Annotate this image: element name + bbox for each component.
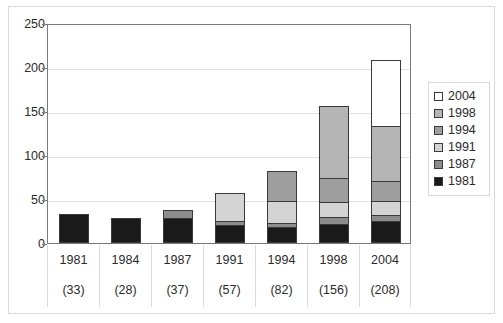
gridline: [48, 69, 410, 70]
bar-1994[interactable]: [267, 171, 297, 243]
bar-segment-2004-1981[interactable]: [371, 221, 401, 243]
legend-item-1987[interactable]: 1987: [434, 156, 485, 173]
bar-1991[interactable]: [215, 193, 245, 243]
gridline: [48, 157, 410, 158]
legend-swatch-icon: [434, 126, 443, 135]
y-axis-tick-label: 50: [5, 194, 45, 207]
x-axis-cell-1998: 1998(156): [307, 245, 359, 307]
bar-segment-1998-1994[interactable]: [319, 178, 349, 202]
x-axis-count-label: (156): [308, 284, 359, 297]
bar-segment-1998-1981[interactable]: [319, 224, 349, 243]
stacked-bar-chart-figure: 050100150200250 1981(33)1984(28)1987(37)…: [0, 0, 503, 323]
x-axis-count-label: (82): [256, 284, 307, 297]
bar-1984[interactable]: [111, 218, 141, 243]
x-axis-category-label: 1998: [308, 254, 359, 267]
bar-segment-1987-1981[interactable]: [163, 218, 193, 243]
bar-segment-1987-1987[interactable]: [163, 210, 193, 218]
gridline: [48, 113, 410, 114]
legend-item-label: 1987: [448, 158, 476, 171]
x-axis-count-label: (208): [360, 284, 410, 297]
legend-item-label: 2004: [448, 90, 476, 103]
legend-item-label: 1991: [448, 141, 476, 154]
y-axis-tick-label: 100: [5, 150, 45, 163]
bar-1987[interactable]: [163, 210, 193, 243]
x-axis-cell-1981: 1981(33): [47, 245, 99, 307]
x-axis-cell-1987: 1987(37): [151, 245, 203, 307]
bar-segment-2004-1998[interactable]: [371, 126, 401, 181]
bar-segment-1981-1981[interactable]: [59, 214, 89, 243]
bar-segment-1984-1981[interactable]: [111, 218, 141, 243]
legend-swatch-icon: [434, 109, 443, 118]
legend-item-1994[interactable]: 1994: [434, 122, 485, 139]
legend-swatch-icon: [434, 177, 443, 186]
bar-segment-1994-1981[interactable]: [267, 227, 297, 243]
legend-item-1991[interactable]: 1991: [434, 139, 485, 156]
x-axis: 1981(33)1984(28)1987(37)1991(57)1994(82)…: [47, 245, 411, 307]
bar-segment-1998-1991[interactable]: [319, 202, 349, 218]
x-axis-category-label: 2004: [360, 254, 410, 267]
y-axis-tick-label: 0: [5, 238, 45, 251]
legend-item-2004[interactable]: 2004: [434, 88, 485, 105]
x-axis-count-label: (57): [204, 284, 255, 297]
x-axis-cell-2004: 2004(208): [359, 245, 411, 307]
y-axis-tick-label: 200: [5, 62, 45, 75]
y-axis-tick-label: 250: [5, 18, 45, 31]
legend-swatch-icon: [434, 92, 443, 101]
legend-item-label: 1994: [448, 124, 476, 137]
legend-swatch-icon: [434, 143, 443, 152]
x-axis-cell-1984: 1984(28): [99, 245, 151, 307]
bar-1981[interactable]: [59, 214, 89, 243]
x-axis-category-label: 1987: [152, 254, 203, 267]
x-axis-count-label: (28): [100, 284, 151, 297]
x-axis-cell-1991: 1991(57): [203, 245, 255, 307]
x-axis-category-label: 1981: [48, 254, 99, 267]
bar-segment-1998-1998[interactable]: [319, 106, 349, 178]
bar-segment-1991-1991[interactable]: [215, 193, 245, 221]
bar-segment-1994-1994[interactable]: [267, 171, 297, 201]
x-axis-category-label: 1984: [100, 254, 151, 267]
bar-segment-2004-2004[interactable]: [371, 60, 401, 126]
y-axis-tick-label: 150: [5, 106, 45, 119]
x-axis-category-label: 1994: [256, 254, 307, 267]
bar-segment-1994-1991[interactable]: [267, 201, 297, 223]
legend-item-label: 1981: [448, 175, 476, 188]
legend-item-label: 1998: [448, 107, 476, 120]
bar-segment-2004-1994[interactable]: [371, 181, 401, 201]
x-axis-category-label: 1991: [204, 254, 255, 267]
bar-segment-2004-1991[interactable]: [371, 201, 401, 215]
x-axis-count-label: (37): [152, 284, 203, 297]
chart-legend: 200419981994199119871981: [428, 82, 490, 196]
plot-area: [47, 24, 411, 244]
bar-1998[interactable]: [319, 106, 349, 243]
legend-item-1981[interactable]: 1981: [434, 173, 485, 190]
legend-swatch-icon: [434, 160, 443, 169]
x-axis-count-label: (33): [48, 284, 99, 297]
legend-item-1998[interactable]: 1998: [434, 105, 485, 122]
x-axis-cell-1994: 1994(82): [255, 245, 307, 307]
bar-segment-1991-1981[interactable]: [215, 225, 245, 243]
bar-2004[interactable]: [371, 60, 401, 243]
